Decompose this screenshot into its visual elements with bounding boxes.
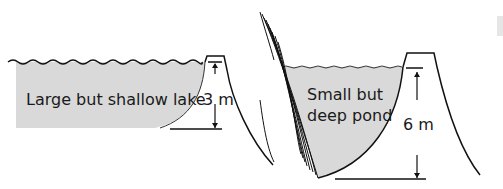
lake-pond-diagram: Large but shallow lake 3 m Small but dee…	[0, 0, 503, 189]
lake-label: Large but shallow lake	[26, 90, 206, 109]
pond-depth-label: 6 m	[403, 115, 434, 134]
pond-label-line2: deep pond	[307, 105, 392, 126]
side-tab-edge	[497, 16, 503, 36]
lake-depth-label: 3 m	[203, 90, 234, 109]
pond-label: Small but deep pond	[307, 84, 392, 126]
pond-label-line1: Small but	[307, 84, 392, 105]
